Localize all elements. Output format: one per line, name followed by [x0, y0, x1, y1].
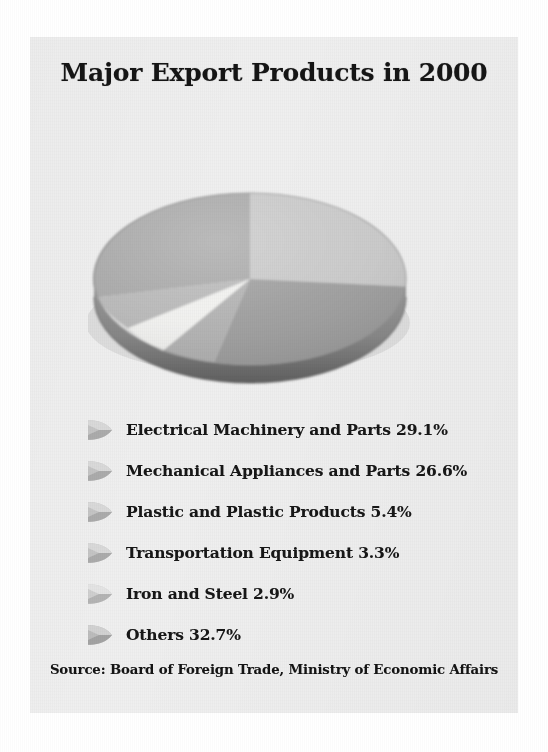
pie-wedge-marker-icon: [88, 498, 118, 526]
pie-wedge-marker-icon: [88, 539, 118, 567]
legend-item-label: Electrical Machinery and Parts 29.1%: [126, 420, 448, 439]
legend-item-electrical-machinery[interactable]: Electrical Machinery and Parts 29.1%: [88, 409, 508, 450]
legend-item-label: Others 32.7%: [126, 625, 241, 644]
legend-item-label: Transportation Equipment 3.3%: [126, 543, 399, 562]
source-caption: Source: Board of Foreign Trade, Ministry…: [30, 662, 518, 677]
legend-item-others[interactable]: Others 32.7%: [88, 614, 508, 655]
pie-wedge-marker-icon: [88, 416, 118, 444]
figure-panel: Major Export Products in 2000: [30, 37, 518, 713]
pie-wedge-marker-icon: [88, 621, 118, 649]
legend-item-iron-and-steel[interactable]: Iron and Steel 2.9%: [88, 573, 508, 614]
scanned-page: Major Export Products in 2000: [0, 0, 548, 752]
pie-chart-svg: [88, 137, 460, 387]
pie-sheen: [94, 193, 406, 365]
legend-item-plastic[interactable]: Plastic and Plastic Products 5.4%: [88, 491, 508, 532]
legend-item-label: Mechanical Appliances and Parts 26.6%: [126, 461, 467, 480]
pie-wedge-marker-icon: [88, 457, 118, 485]
page-title: Major Export Products in 2000: [30, 58, 518, 87]
legend: Electrical Machinery and Parts 29.1% Mec…: [88, 409, 508, 655]
pie-chart: [88, 137, 460, 387]
pie-wedge-marker-icon: [88, 580, 118, 608]
pie-body: [93, 193, 406, 383]
legend-item-mechanical-appliances[interactable]: Mechanical Appliances and Parts 26.6%: [88, 450, 508, 491]
legend-item-transportation-equipment[interactable]: Transportation Equipment 3.3%: [88, 532, 508, 573]
legend-item-label: Plastic and Plastic Products 5.4%: [126, 502, 412, 521]
legend-item-label: Iron and Steel 2.9%: [126, 584, 294, 603]
